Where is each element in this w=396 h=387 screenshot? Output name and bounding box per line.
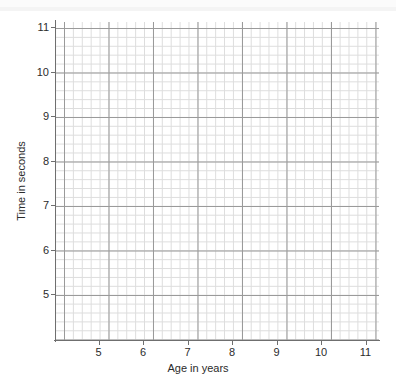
figure-top-band-secondary — [0, 7, 396, 11]
y-tick-label: 9 — [43, 110, 49, 122]
x-axis-tick — [99, 341, 100, 345]
x-axis-tick — [277, 341, 278, 345]
y-tick-label: 7 — [43, 199, 49, 211]
y-axis-tick — [51, 250, 55, 251]
y-axis-tick — [51, 27, 55, 28]
x-tick-label: 10 — [315, 346, 327, 358]
x-axis-title: Age in years — [0, 362, 396, 374]
x-axis-line — [54, 340, 380, 341]
x-tick-label: 8 — [229, 346, 235, 358]
y-axis-tick — [51, 72, 55, 73]
x-tick-label: 11 — [360, 346, 371, 358]
y-axis-tick — [51, 205, 55, 206]
x-axis-tick — [321, 341, 322, 345]
x-axis-tick — [232, 341, 233, 345]
y-axis-tick — [51, 161, 55, 162]
x-tick-label: 5 — [95, 346, 101, 358]
y-tick-label: 11 — [38, 21, 49, 33]
x-tick-label: 9 — [273, 346, 279, 358]
y-tick-label: 5 — [43, 288, 49, 300]
y-tick-label: 10 — [37, 66, 49, 78]
y-axis-title: Time in seconds — [15, 141, 27, 221]
x-axis-tick — [366, 341, 367, 345]
plot-area — [55, 22, 379, 340]
y-tick-label: 8 — [43, 155, 49, 167]
x-tick-label: 7 — [184, 346, 190, 358]
y-axis-line — [55, 20, 56, 342]
chart-figure: 5 6 7 8 9 10 11 5 6 7 8 9 10 11 Age in y… — [0, 0, 396, 387]
y-axis-tick — [51, 116, 55, 117]
y-axis-tick — [51, 294, 55, 295]
y-tick-label: 6 — [43, 244, 49, 256]
figure-top-band — [0, 0, 396, 7]
x-tick-label: 6 — [140, 346, 146, 358]
x-axis-tick — [188, 341, 189, 345]
y-axis-title-wrapper: Time in seconds — [12, 0, 30, 387]
x-axis-tick — [143, 341, 144, 345]
